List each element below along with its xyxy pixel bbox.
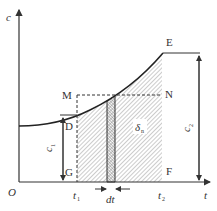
dt-label: dt bbox=[106, 193, 116, 205]
point-f-label: F bbox=[166, 165, 172, 177]
c2-label-group: c 2 bbox=[180, 124, 194, 132]
integral-area bbox=[77, 54, 162, 182]
y-axis-label: c bbox=[6, 11, 11, 23]
point-d-label: D bbox=[65, 120, 73, 132]
dt-strip bbox=[107, 96, 115, 182]
c1-sub: 1 bbox=[50, 144, 56, 147]
origin-label: O bbox=[8, 186, 16, 198]
x-axis-label: t bbox=[204, 189, 208, 201]
point-n-label: N bbox=[165, 88, 173, 100]
c2-sub: 2 bbox=[188, 124, 194, 127]
concentration-time-diagram: c O t E M N D G F t 1 t 2 dt c 1 c 2 δ n bbox=[0, 0, 217, 211]
delta-sub: n bbox=[141, 128, 144, 134]
point-g-label: G bbox=[65, 166, 73, 178]
point-m-label: M bbox=[62, 89, 72, 101]
point-e-label: E bbox=[166, 36, 173, 48]
t1-sub: 1 bbox=[77, 196, 80, 202]
t2-sub: 2 bbox=[162, 196, 165, 202]
c1-label-group: c 1 bbox=[42, 144, 56, 152]
